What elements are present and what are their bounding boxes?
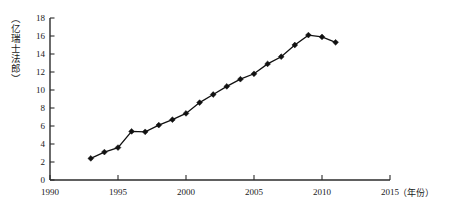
x-tick-label: 1995 <box>109 187 128 197</box>
x-tick-label: 2000 <box>177 187 196 197</box>
series-markers <box>88 32 339 161</box>
y-tick-label: 2 <box>41 157 46 167</box>
x-axis: 199019952000200520102015 （年份） <box>41 175 434 198</box>
line-chart-plot: 024681012141618 199019952000200520102015… <box>0 0 449 223</box>
y-tick-label: 18 <box>36 13 46 23</box>
chart-container: （亿瑞士法郎） 024681012141618 1990199520002005… <box>0 0 449 223</box>
data-point <box>333 39 339 45</box>
y-axis: 024681012141618 <box>36 13 55 185</box>
x-tick-label: 2015 <box>381 187 400 197</box>
data-point <box>102 149 108 155</box>
y-tick-label: 14 <box>36 49 46 59</box>
y-tick-label: 8 <box>41 103 46 113</box>
x-axis-tick-labels: 199019952000200520102015 <box>41 187 400 197</box>
x-tick-label: 1990 <box>41 187 60 197</box>
y-tick-label: 12 <box>36 67 45 77</box>
data-point <box>238 76 244 82</box>
y-axis-tick-labels: 024681012141618 <box>36 13 46 185</box>
y-tick-label: 10 <box>36 85 46 95</box>
data-point <box>156 122 162 128</box>
x-tick-label: 2010 <box>313 187 332 197</box>
data-series <box>88 32 339 161</box>
data-point <box>210 92 216 98</box>
data-point <box>88 156 94 162</box>
y-tick-label: 6 <box>41 121 46 131</box>
y-tick-label: 16 <box>36 31 46 41</box>
data-point <box>142 129 148 135</box>
x-tick-label: 2005 <box>245 187 264 197</box>
y-tick-label: 4 <box>41 139 46 149</box>
data-point <box>170 117 176 123</box>
y-tick-label: 0 <box>41 175 46 185</box>
x-axis-unit-label: （年份） <box>398 187 434 198</box>
data-point <box>319 34 325 40</box>
x-axis-ticks <box>50 175 390 180</box>
data-point <box>224 84 230 90</box>
